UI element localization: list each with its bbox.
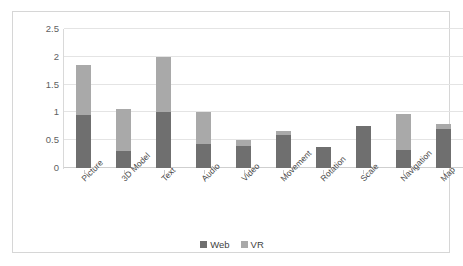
category-axis-labels: Picture3D ModelTextAudioVideoMovementRot… bbox=[64, 170, 463, 230]
chart-legend: WebVR bbox=[13, 240, 451, 250]
y-axis-tick-label: 0 bbox=[25, 163, 59, 173]
legend-item-web[interactable]: Web bbox=[200, 240, 229, 250]
y-axis-labels: 00.511.522.5 bbox=[21, 29, 59, 168]
bar-segment-vr[interactable] bbox=[116, 109, 131, 152]
bar-segment-vr[interactable] bbox=[236, 140, 251, 146]
bar-segment-web[interactable] bbox=[76, 115, 91, 168]
category-label-text: Text bbox=[160, 166, 177, 183]
bar-segment-web[interactable] bbox=[156, 112, 171, 168]
bar-segment-web[interactable] bbox=[356, 126, 371, 168]
gridline bbox=[64, 28, 463, 29]
bar-segment-vr[interactable] bbox=[396, 114, 411, 150]
plot-area bbox=[64, 29, 463, 168]
bar-segment-web[interactable] bbox=[196, 144, 211, 168]
legend-swatch-icon bbox=[241, 241, 248, 248]
bar-segment-vr[interactable] bbox=[76, 65, 91, 115]
legend-swatch-icon bbox=[200, 241, 207, 248]
y-axis-tick-label: 2 bbox=[25, 52, 59, 62]
bar-segment-vr[interactable] bbox=[276, 131, 291, 135]
bar-segment-vr[interactable] bbox=[156, 57, 171, 113]
gridline bbox=[64, 84, 463, 85]
chart-container: 00.511.522.5 Picture3D ModelTextAudioVid… bbox=[12, 11, 450, 253]
gridline bbox=[64, 56, 463, 57]
bar-segment-vr[interactable] bbox=[436, 124, 451, 130]
y-axis-tick-label: 1.5 bbox=[25, 80, 59, 90]
bar-segment-vr[interactable] bbox=[196, 112, 211, 144]
bar-segment-web[interactable] bbox=[436, 129, 451, 168]
y-axis-tick-label: 1 bbox=[25, 108, 59, 118]
bar-segment-web[interactable] bbox=[236, 146, 251, 168]
y-axis-tick-label: 0.5 bbox=[25, 135, 59, 145]
legend-label: VR bbox=[251, 240, 264, 250]
y-axis-tick-label: 2.5 bbox=[25, 24, 59, 34]
legend-label: Web bbox=[210, 240, 229, 250]
bar-segment-web[interactable] bbox=[276, 135, 291, 168]
legend-item-vr[interactable]: VR bbox=[241, 240, 264, 250]
